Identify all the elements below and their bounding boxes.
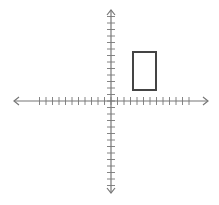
coordinate-plane bbox=[0, 0, 219, 205]
rectangle-shape bbox=[133, 52, 156, 90]
